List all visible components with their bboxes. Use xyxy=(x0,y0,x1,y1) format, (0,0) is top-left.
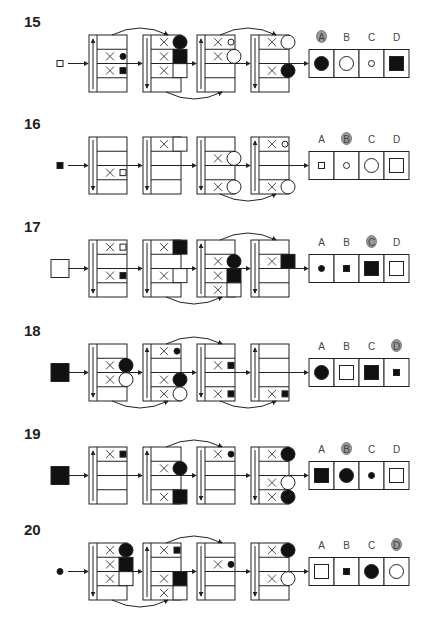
row-shape xyxy=(228,362,234,368)
row-shape xyxy=(173,137,187,151)
row-shape xyxy=(119,358,133,372)
option-shape xyxy=(369,61,375,67)
option-D[interactable]: D xyxy=(384,539,409,586)
option-shape xyxy=(340,57,354,71)
option-label: B xyxy=(343,237,350,248)
option-D[interactable]: D xyxy=(384,340,409,387)
row-shape xyxy=(173,35,187,49)
option-A[interactable]: A xyxy=(309,237,334,283)
row-shape xyxy=(281,476,295,490)
row-shape xyxy=(173,269,187,283)
option-shape xyxy=(344,163,350,169)
skip-arc-arrow xyxy=(112,600,168,607)
option-shape xyxy=(344,569,350,575)
option-shape xyxy=(315,469,329,483)
skip-arc-arrow xyxy=(220,401,276,408)
row-shape xyxy=(173,490,187,504)
row-shape xyxy=(282,141,288,147)
option-B[interactable]: B xyxy=(334,540,359,586)
option-label: D xyxy=(393,237,400,248)
option-D[interactable]: D xyxy=(384,134,409,180)
transform-box xyxy=(89,543,133,600)
transform-box xyxy=(197,344,235,401)
option-shape xyxy=(365,366,379,380)
option-C[interactable]: C xyxy=(359,341,384,387)
option-B[interactable]: B xyxy=(334,237,359,283)
skip-arc-arrow xyxy=(112,28,168,35)
option-B[interactable]: B xyxy=(334,341,359,387)
row-shape xyxy=(120,244,126,250)
option-C[interactable]: C xyxy=(359,32,384,78)
row-shape xyxy=(282,391,288,397)
puzzle-sheet: 15ABCD16ABCD17ABCD18ABCD19ABCD20ABCD xyxy=(0,0,432,635)
transform-box xyxy=(197,543,235,600)
input-shape xyxy=(57,163,63,169)
row-shape xyxy=(120,273,126,279)
row-shape xyxy=(227,180,241,194)
option-label: C xyxy=(368,444,375,455)
row-shape xyxy=(119,373,133,387)
skip-arc-arrow xyxy=(166,92,222,99)
row-shape xyxy=(227,49,241,63)
option-B[interactable]: B xyxy=(334,443,359,490)
transform-box xyxy=(197,35,241,92)
option-D[interactable]: D xyxy=(384,444,409,490)
option-C[interactable]: C xyxy=(359,444,384,490)
row-shape xyxy=(227,254,241,268)
skip-arc-arrow xyxy=(166,297,222,304)
skip-arc-arrow xyxy=(112,401,168,408)
row-shape xyxy=(281,180,295,194)
row-shape xyxy=(119,557,133,571)
option-C[interactable]: C xyxy=(359,236,384,283)
option-D[interactable]: D xyxy=(384,237,409,283)
option-A[interactable]: A xyxy=(309,134,334,180)
transform-box xyxy=(89,344,133,401)
question-number: 19 xyxy=(24,425,41,442)
row-shape xyxy=(228,561,234,567)
question-number: 17 xyxy=(24,218,41,235)
option-B[interactable]: B xyxy=(334,32,359,78)
option-C[interactable]: C xyxy=(359,540,384,586)
transform-box xyxy=(251,447,295,504)
row-shape xyxy=(173,572,187,586)
transform-box xyxy=(143,344,187,401)
option-shape xyxy=(344,266,350,272)
row-shape xyxy=(228,391,234,397)
row-shape xyxy=(227,283,241,297)
option-label: C xyxy=(368,32,375,43)
input-shape xyxy=(51,260,69,278)
option-label: D xyxy=(393,32,400,43)
option-label: C xyxy=(368,540,375,551)
option-shape xyxy=(390,469,404,483)
option-shape xyxy=(315,366,329,380)
option-B[interactable]: B xyxy=(334,133,359,180)
row-shape xyxy=(281,447,295,461)
transform-box xyxy=(251,344,289,401)
option-D[interactable]: D xyxy=(384,32,409,78)
option-A[interactable]: A xyxy=(309,31,334,78)
row-shape xyxy=(228,451,234,457)
option-label: B xyxy=(343,134,350,145)
question-number: 20 xyxy=(24,521,41,538)
option-shape xyxy=(390,159,404,173)
option-label: D xyxy=(393,540,400,551)
option-label: D xyxy=(393,444,400,455)
row-shape xyxy=(227,151,241,165)
input-shape xyxy=(51,467,69,485)
option-shape xyxy=(390,262,404,276)
option-A[interactable]: A xyxy=(309,540,334,586)
option-label: A xyxy=(318,444,325,455)
option-label: A xyxy=(318,540,325,551)
row-shape xyxy=(281,490,295,504)
row-shape xyxy=(281,64,295,78)
skip-arc-arrow xyxy=(220,233,276,240)
row-shape xyxy=(227,269,241,283)
transform-box xyxy=(143,447,187,504)
option-C[interactable]: C xyxy=(359,134,384,180)
row-shape xyxy=(173,586,187,600)
row-shape xyxy=(174,348,180,354)
option-A[interactable]: A xyxy=(309,341,334,387)
transform-box xyxy=(143,35,187,92)
option-A[interactable]: A xyxy=(309,444,334,490)
row-shape xyxy=(120,68,126,74)
